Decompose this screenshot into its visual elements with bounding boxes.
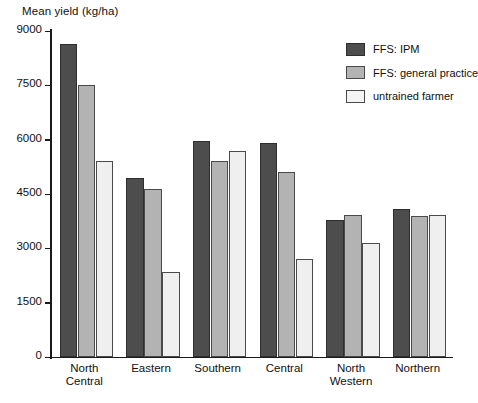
x-axis-category-label: Southern [184,362,251,375]
legend-item-ffs-general-practice: FFS: general practice [346,66,478,80]
bar [144,189,162,357]
chart-legend: FFS: IPM FFS: general practice untrained… [346,42,478,113]
y-axis-tick-mark [45,302,51,304]
x-axis-category-label: Central [251,362,318,375]
y-axis-tick-label: 9000 [0,23,42,35]
y-axis-tick-mark [45,357,51,359]
y-axis-title: Mean yield (kg/ha) [22,5,118,17]
y-axis-tick-label: 3000 [0,240,42,252]
bar [429,215,447,357]
bar-group [251,31,318,357]
y-axis-tick-mark [45,194,51,196]
y-axis-tick-mark [45,85,51,87]
bar [126,178,144,357]
bar [411,216,429,357]
y-axis-tick-label: 7500 [0,77,42,89]
bar [278,172,296,357]
legend-swatch-icon-untrained-farmer [346,90,365,103]
y-axis-tick-mark [45,248,51,250]
y-axis-tick-label: 1500 [0,295,42,307]
y-axis-tick-label: 0 [0,349,42,361]
bar [96,161,114,357]
x-axis-category-label: Eastern [118,362,185,375]
bar-group [184,31,251,357]
y-axis-tick-mark [45,139,51,141]
bar [193,141,211,357]
bar [326,220,344,357]
legend-label-untrained-farmer: untrained farmer [373,90,454,102]
bar [60,44,78,357]
bar [78,85,96,357]
legend-swatch-icon-ffs-general-practice [346,66,365,79]
legend-item-untrained-farmer: untrained farmer [346,89,478,103]
y-axis-tick-mark [45,31,51,33]
bar [362,243,380,357]
x-axis-category-label: North Western [318,362,385,387]
bar [229,151,247,357]
legend-item-ffs-ipm: FFS: IPM [346,42,478,56]
bar [393,209,411,357]
y-axis-tick-label: 4500 [0,186,42,198]
legend-swatch-icon-ffs-ipm [346,43,365,56]
x-axis-category-label: Northern [384,362,451,375]
bar [211,161,229,357]
bar [162,272,180,357]
legend-label-ffs-ipm: FFS: IPM [373,43,419,55]
legend-label-ffs-general-practice: FFS: general practice [373,67,478,79]
bar-group [51,31,118,357]
bar [296,259,314,357]
x-axis-category-label: North Central [51,362,118,387]
bar-group [118,31,185,357]
bar [344,215,362,357]
y-axis-tick-label: 6000 [0,132,42,144]
bar [260,143,278,357]
